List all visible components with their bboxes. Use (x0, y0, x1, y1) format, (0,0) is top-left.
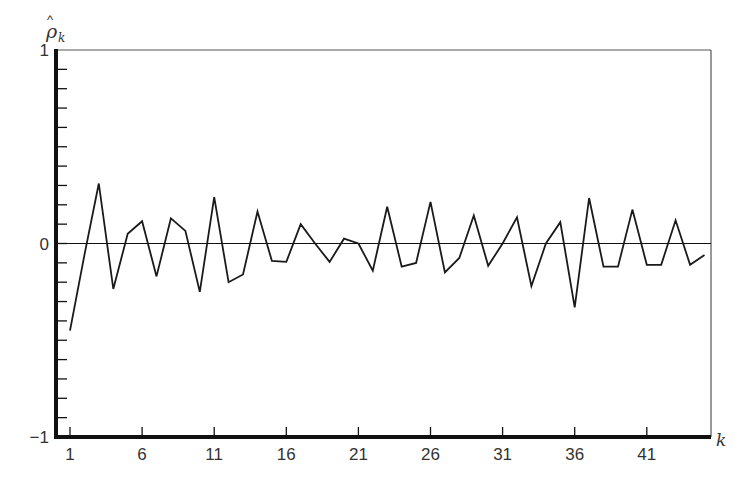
x-axis-labels: 1611162126313641 (65, 445, 656, 464)
x-tick-label: 11 (205, 445, 223, 464)
x-tick-label: 36 (565, 445, 584, 464)
y-axis-title: ^ ρ k (45, 12, 65, 45)
x-tick-label: 16 (277, 445, 296, 464)
x-tick-label: 41 (637, 445, 656, 464)
x-tick-label: 31 (493, 445, 512, 464)
x-tick-label: 26 (421, 445, 440, 464)
x-axis-title: k (716, 430, 726, 450)
y-tick-label: 0 (40, 235, 49, 254)
y-tick-label: −1 (30, 428, 49, 447)
rho-symbol: ρ (45, 20, 58, 42)
x-tick-label: 1 (65, 445, 74, 464)
x-tick-label: 21 (349, 445, 368, 464)
x-tick-label: 6 (137, 445, 146, 464)
rho-subscript: k (58, 31, 65, 45)
acf-series-line (70, 184, 705, 331)
y-tick-label: 1 (40, 41, 49, 60)
acf-chart: 10−1 1611162126313641 ^ ρ k k (0, 0, 742, 489)
y-axis-labels: 10−1 (30, 41, 49, 447)
